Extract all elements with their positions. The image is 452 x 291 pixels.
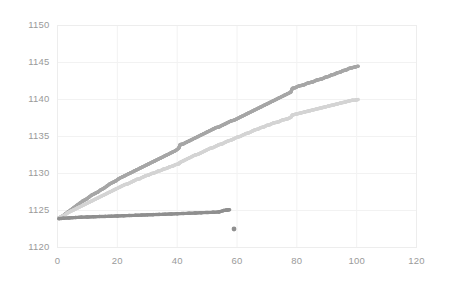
data-point — [217, 210, 221, 214]
data-point — [208, 147, 212, 151]
data-point — [169, 212, 173, 216]
data-point — [317, 107, 321, 111]
data-point — [144, 174, 148, 178]
data-point — [145, 213, 149, 217]
data-point — [163, 212, 167, 216]
data-point — [133, 214, 137, 218]
data-point — [178, 143, 182, 147]
data-point — [309, 109, 313, 113]
data-point — [253, 128, 257, 132]
data-point — [306, 110, 310, 114]
data-point — [102, 187, 106, 191]
data-point — [306, 81, 310, 85]
data-point — [96, 190, 100, 194]
y-axis-tick-label: 1130 — [14, 167, 50, 178]
data-point — [335, 71, 339, 75]
data-point — [156, 169, 160, 173]
data-point — [309, 81, 313, 85]
data-point — [226, 139, 230, 143]
data-point — [74, 216, 78, 220]
data-point — [193, 211, 197, 215]
y-axis-tick-label: 1135 — [14, 130, 50, 141]
x-axis-tick-label: 100 — [342, 255, 372, 266]
data-point — [291, 113, 295, 117]
data-point — [211, 210, 215, 214]
data-point — [332, 103, 336, 107]
data-point — [353, 98, 357, 102]
x-axis-tick-label: 40 — [162, 255, 192, 266]
data-point — [62, 216, 66, 220]
data-point — [217, 143, 221, 147]
data-point — [128, 214, 132, 218]
data-point — [187, 211, 191, 215]
data-point — [229, 119, 233, 123]
data-point — [274, 121, 278, 125]
data-point — [347, 99, 351, 103]
data-point — [135, 178, 139, 182]
data-point — [105, 184, 109, 188]
data-point — [235, 135, 239, 139]
data-point — [168, 165, 172, 169]
data-point — [353, 65, 357, 69]
data-point — [193, 153, 197, 157]
x-axis-tick-label: 0 — [43, 255, 73, 266]
data-point — [87, 195, 91, 199]
data-point — [123, 183, 127, 187]
data-point — [157, 213, 161, 217]
data-point — [329, 104, 333, 108]
data-point — [314, 78, 318, 82]
data-point — [303, 110, 307, 114]
x-axis-tick-label: 60 — [222, 255, 252, 266]
data-point — [294, 113, 298, 117]
data-point — [98, 215, 102, 219]
data-point — [314, 107, 318, 111]
data-point — [291, 87, 295, 91]
data-point — [199, 211, 203, 215]
x-axis-tick-label: 120 — [402, 255, 432, 266]
data-point — [162, 167, 166, 171]
data-point — [335, 102, 339, 106]
data-point — [317, 78, 321, 82]
series-lower-rising-series — [57, 98, 360, 220]
data-point — [244, 132, 248, 136]
y-axis-tick-label: 1125 — [14, 204, 50, 215]
data-series-group — [57, 64, 360, 231]
x-axis-tick-label: 80 — [282, 255, 312, 266]
data-point — [300, 84, 304, 88]
y-axis-tick-label: 1150 — [14, 19, 50, 30]
data-point — [283, 118, 287, 122]
data-point — [311, 108, 315, 112]
data-point — [329, 73, 333, 77]
data-point — [280, 118, 284, 122]
data-point — [139, 213, 143, 217]
data-point — [259, 126, 263, 130]
data-point — [205, 211, 209, 215]
data-point — [181, 212, 185, 216]
data-point — [174, 163, 178, 167]
data-point — [84, 198, 88, 202]
data-point — [92, 215, 96, 219]
data-point — [104, 215, 108, 219]
data-point — [350, 66, 354, 70]
data-point — [297, 84, 301, 88]
data-point — [265, 124, 269, 128]
data-point — [341, 69, 345, 73]
data-point — [289, 90, 293, 94]
data-point — [68, 216, 72, 220]
data-point — [114, 179, 118, 183]
data-point — [326, 104, 330, 108]
data-point — [177, 147, 181, 151]
data-point — [63, 213, 67, 217]
y-axis-tick-label: 1145 — [14, 56, 50, 67]
data-point — [122, 214, 126, 218]
data-point — [86, 215, 90, 219]
data-point — [338, 101, 342, 105]
data-point — [347, 67, 351, 71]
data-point — [214, 126, 218, 130]
data-point — [341, 101, 345, 105]
data-point — [151, 213, 155, 217]
y-axis-tick-label: 1140 — [14, 93, 50, 104]
data-point — [356, 98, 360, 102]
chart-container: 1150114511401135113011251120 02040608010… — [0, 0, 452, 291]
data-point — [300, 111, 304, 115]
